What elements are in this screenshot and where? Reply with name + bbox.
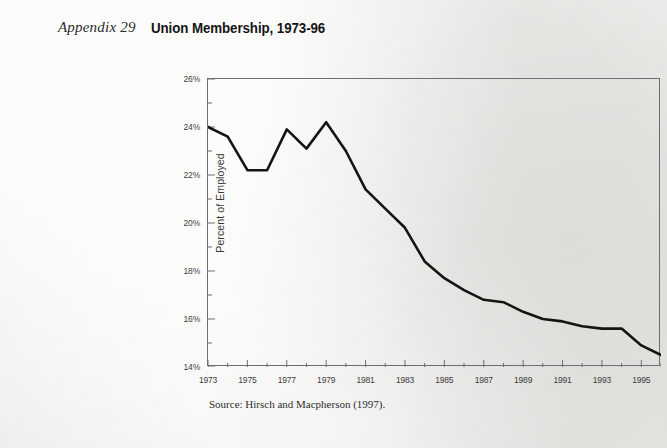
y-axis-tick-label: 24% (166, 122, 200, 132)
source-note: Source: Hirsch and Macpherson (1997). (209, 398, 385, 410)
x-axis-tick-label: 1977 (267, 375, 307, 385)
y-axis-tick-label: 26% (166, 74, 200, 84)
x-axis-tick-label: 1995 (621, 375, 661, 385)
x-axis-tick-label: 1989 (503, 375, 543, 385)
x-axis-tick-label: 1993 (582, 375, 622, 385)
y-axis-tick-label: 20% (166, 218, 200, 228)
line-chart: Percent of Employed 14%16%18%20%22%24%26… (0, 0, 667, 448)
x-axis-tick-label: 1975 (227, 375, 267, 385)
y-axis-tick-label: 16% (166, 314, 200, 324)
union-membership-line (208, 122, 661, 355)
x-axis-tick-label: 1979 (306, 375, 346, 385)
x-axis-tick-label: 1973 (188, 375, 228, 385)
data-series-line (208, 79, 661, 367)
x-axis-tick-label: 1991 (543, 375, 583, 385)
x-axis-tick-label: 1985 (424, 375, 464, 385)
x-axis-tick-label: 1987 (464, 375, 504, 385)
y-axis-tick-label: 22% (166, 170, 200, 180)
y-axis-tick-label: 14% (166, 362, 200, 372)
x-axis-tick-label: 1983 (385, 375, 425, 385)
y-axis-tick-label: 18% (166, 266, 200, 276)
plot-frame: Percent of Employed 14%16%18%20%22%24%26… (207, 78, 660, 366)
x-axis-tick-label: 1981 (346, 375, 386, 385)
